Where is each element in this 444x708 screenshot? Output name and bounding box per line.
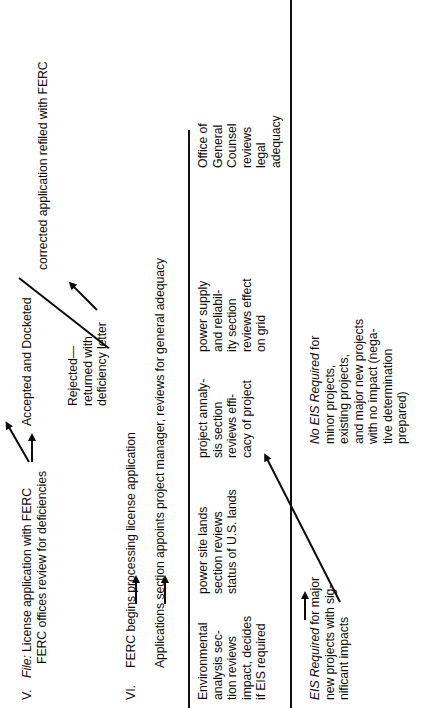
file-step-lead: File: [20,655,34,678]
psl-line-3: status of U.S. lands [225,489,240,594]
env-line-1: Environmental [196,623,211,700]
psr-line-3: ity section [225,298,240,352]
pa-line-1: project annaly- [196,379,211,458]
file-step-rest: License application with FERC [20,488,34,655]
applications-section-appoints: Applications section appoints project ma… [153,258,168,668]
no-eis-required-lead: No EIS Required [308,353,322,444]
table-rule-top-right-extension [188,130,190,264]
env-line-5: if EIS required [254,624,269,700]
corrected-application-refiled: corrected application refiled with FERC [36,61,51,270]
ogc-line-2: General [211,125,226,168]
ogc-line-1: Office of [196,123,211,168]
section-number-v: V. [20,690,35,701]
no-eis-required-line1-rest: for [308,336,322,353]
pa-line-3: reviews effi- [225,394,240,458]
env-line-2: analysis sec- [211,630,226,700]
table-rule-top [188,264,190,708]
document-page: V. File: License application with FERC F… [0,0,444,708]
accepted-and-docketed: Accepted and Docketed [20,298,35,426]
no-eis-required-line2: minor projects, [323,365,338,444]
no-eis-required-line3: existing projects, [337,354,352,444]
table-rule-bottom-right-extension [290,0,292,264]
no-eis-required-line7: prepared) [395,392,410,444]
ogc-line-3: Counsel [225,124,240,168]
ogc-line-4: reviews [240,127,255,168]
psr-line-4: reviews effect [240,278,255,352]
psl-line-1: power site lands [196,507,211,594]
rotated-page-canvas: V. File: License application with FERC F… [0,0,444,708]
rejected-line2: returned with [81,336,96,406]
section-number-vi: VI. [124,685,139,700]
rejected-line3: deficiency letter [95,322,110,406]
psr-line-1: power supply [196,281,211,352]
pa-line-2: sis section [211,402,226,458]
ferc-begins-processing: FERC begins processing license applicati… [124,432,139,668]
ogc-line-6: adequacy [269,115,284,168]
pa-line-4: cacy of project [240,380,255,458]
env-line-3: tion reviews [225,636,240,700]
no-eis-required-line4: and major new projects [352,319,367,444]
no-eis-required-line5: with no impact (nega- [366,329,381,444]
file-step-line1: File: License application with FERC [20,488,35,678]
arrow-rejected-to-refiled [61,274,101,314]
ogc-line-5: legal [254,143,269,168]
file-step-line2: FERC offices review for deficiencies [35,471,50,664]
env-line-4: impact, decides [240,616,255,700]
psl-line-2: section reviews [211,511,226,594]
arrow-to-no-eis-required [258,448,344,604]
eis-required-line1: EIS Required for major [308,577,323,700]
psr-line-5: on grid [254,315,269,352]
eis-required-line1-rest: for major [308,577,322,628]
psr-line-2: and reliabil- [211,290,226,352]
rejected-line1: Rejected— [66,346,81,406]
eis-required-lead: EIS Required [308,628,322,700]
eis-required-line3: nificant impacts [337,617,352,700]
no-eis-required-line6: tive determination [381,349,396,444]
table-rule-bottom [290,264,292,708]
no-eis-required-line1: No EIS Required for [308,336,323,444]
